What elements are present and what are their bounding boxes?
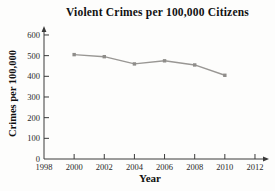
data-point	[133, 62, 136, 65]
y-tick-label: 400	[27, 71, 40, 81]
y-axis-label: Crimes per 100,000	[7, 39, 18, 149]
y-tick-label: 200	[27, 113, 40, 123]
x-tick-label: 2010	[216, 162, 233, 172]
x-tick-label: 1998	[36, 162, 53, 172]
y-axis-arrow-icon	[42, 26, 47, 32]
chart-canvas: 0100200300400500600199820002002200420062…	[0, 0, 275, 191]
x-axis-label: Year	[44, 172, 256, 184]
x-tick-label: 2008	[186, 162, 203, 172]
data-line	[74, 55, 225, 76]
chart-container: Violent Crimes per 100,000 Citizens Crim…	[0, 0, 275, 191]
x-tick-label: 2006	[156, 162, 173, 172]
y-tick-label: 600	[27, 30, 40, 40]
chart-title: Violent Crimes per 100,000 Citizens	[40, 6, 275, 18]
x-axis-arrow-icon	[263, 157, 269, 162]
x-tick-label: 2002	[96, 162, 113, 172]
data-point	[193, 63, 196, 66]
y-tick-label: 300	[27, 92, 40, 102]
data-point	[103, 55, 106, 58]
x-tick-label: 2000	[66, 162, 83, 172]
data-point	[163, 59, 166, 62]
x-tick-label: 2012	[246, 162, 263, 172]
data-point	[223, 74, 226, 77]
y-tick-label: 100	[27, 133, 40, 143]
x-tick-label: 2004	[126, 162, 144, 172]
y-tick-label: 500	[27, 51, 40, 61]
data-point	[72, 53, 75, 56]
